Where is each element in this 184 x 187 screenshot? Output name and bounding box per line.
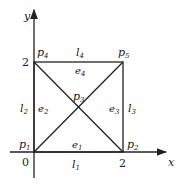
boundary-l3: l3 (128, 102, 137, 116)
svg-text:e4: e4 (75, 65, 85, 78)
node-p3: p3 (73, 90, 85, 104)
origin-label: 0 (22, 156, 29, 169)
node-p1: p1 (19, 138, 31, 152)
node-p5: p5 (118, 46, 130, 60)
mesh-diagram: y x 0 2 2 p1 p2 p3 p4 p5 l1 l2 l3 l4 e1 … (0, 0, 184, 187)
node-p2: p2 (127, 138, 139, 152)
svg-text:l1: l1 (72, 158, 80, 172)
node-p4: p4 (37, 46, 49, 60)
svg-text:e3: e3 (109, 103, 120, 116)
x-axis-label: x (168, 156, 175, 169)
svg-text:e1: e1 (72, 139, 82, 152)
element-e1: e1 (72, 139, 82, 152)
y-axis-label: y (23, 10, 31, 23)
svg-text:p3: p3 (73, 90, 85, 104)
svg-text:l3: l3 (128, 102, 137, 116)
element-e3: e3 (109, 103, 120, 116)
svg-text:p5: p5 (118, 46, 130, 60)
boundary-l1: l1 (72, 158, 80, 172)
boundary-l4: l4 (76, 46, 84, 60)
svg-text:e2: e2 (38, 103, 49, 116)
element-e4: e4 (75, 65, 85, 78)
svg-text:l4: l4 (76, 46, 84, 60)
svg-text:l2: l2 (20, 102, 29, 116)
svg-text:p4: p4 (37, 46, 49, 60)
x-tick-2: 2 (119, 157, 126, 170)
y-tick-2: 2 (22, 56, 29, 69)
svg-text:p2: p2 (127, 138, 139, 152)
element-e2: e2 (38, 103, 49, 116)
boundary-l2: l2 (20, 102, 29, 116)
svg-text:p1: p1 (19, 138, 31, 152)
